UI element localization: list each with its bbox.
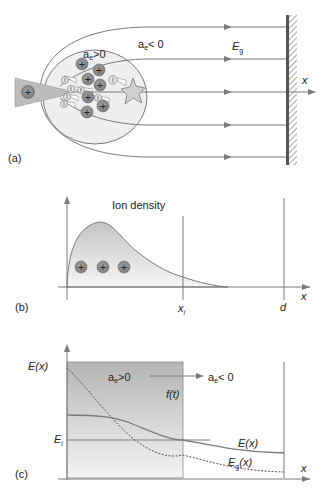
curve-E-label: E(x): [238, 437, 259, 449]
svg-text:+: +: [121, 261, 127, 273]
x-axis-label-b: x: [300, 290, 307, 302]
panel-b: + + + Ion density (b) xi d x: [15, 196, 310, 316]
field-arrows: [224, 24, 232, 160]
front-label: f(t): [166, 388, 180, 400]
ion-icon: +: [75, 261, 87, 274]
marker-d-label: d: [280, 301, 287, 313]
ion-icon: +: [118, 261, 130, 274]
svg-text:+: +: [97, 79, 103, 91]
tip-ion-sign: +: [25, 86, 31, 98]
ion-icon: +: [97, 261, 109, 274]
panel-c-label: (c): [15, 468, 28, 480]
ion-icon: +: [97, 100, 109, 113]
svg-text:+: +: [85, 73, 91, 85]
inner-region-label: ae>0: [83, 48, 106, 61]
figure-canvas: +: [0, 0, 325, 488]
panel-a-label: (a): [8, 152, 21, 164]
svg-text:+: +: [78, 261, 84, 273]
svg-text:+: +: [85, 91, 91, 103]
ion-icon: +: [81, 106, 93, 119]
y-axis-arrow-b: [64, 196, 70, 204]
ion-density-curve: [67, 222, 228, 287]
ion-icon: +: [93, 64, 105, 77]
y-axis-label-c: E(x): [28, 360, 49, 372]
svg-text:+: +: [84, 106, 90, 118]
outer-region-label: ae< 0: [138, 38, 164, 51]
x-axis-arrow-c: [302, 476, 310, 482]
ion-density-title: Ion density: [112, 199, 166, 211]
ion-icon: +: [82, 73, 94, 86]
left-region-label: ae>0: [108, 371, 131, 384]
ion-icon: +: [82, 91, 94, 104]
panel-b-label: (b): [15, 301, 28, 313]
marker-xi-label: xi: [177, 302, 186, 316]
ei-label: Ei: [54, 433, 63, 447]
right-region-label: ae< 0: [208, 371, 234, 384]
curve-Eg-label: Eg(x): [228, 456, 252, 471]
panel-c: E(x) ae>0 ae< 0 f(t) Ei E(x) Eg(x) (c) x: [15, 344, 310, 482]
x-axis-label-c: x: [300, 462, 307, 474]
wall-electrode-icon: [286, 15, 289, 165]
y-axis-arrow-c: [64, 344, 70, 352]
svg-text:+: +: [96, 64, 102, 76]
arrow-icon: [196, 373, 204, 379]
ion-icon: +: [94, 79, 106, 92]
x-axis-label-a: x: [301, 74, 308, 86]
field-label: Eg: [232, 40, 243, 55]
panel-a: +: [8, 15, 316, 165]
svg-text:+: +: [100, 100, 106, 112]
svg-text:+: +: [100, 261, 106, 273]
arrow-icon: [308, 89, 316, 95]
wall-hatching: [289, 15, 297, 165]
